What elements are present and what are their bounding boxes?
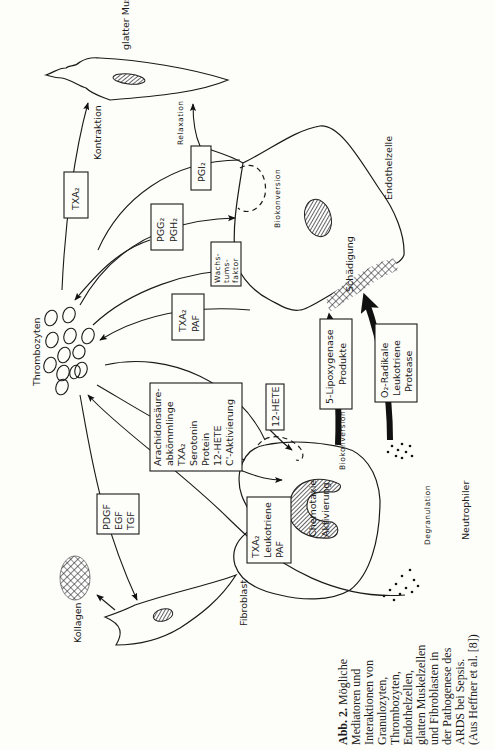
svg-text:TXA₂: TXA₂	[250, 535, 261, 559]
contraction-label: Kontraktion	[92, 105, 103, 160]
svg-text:Protease: Protease	[403, 351, 414, 392]
endothelial-label: Endothelzelle	[383, 136, 394, 200]
arrow-arach-neutro	[240, 470, 282, 480]
svg-text:C'-Aktivierung: C'-Aktivierung	[224, 399, 235, 466]
svg-text:und Fibroblasten in: und Fibroblasten in	[427, 652, 441, 745]
svg-text:Produkte: Produkte	[337, 343, 348, 385]
box-arachidonic: Arachidonsäure- abkömmlinge TXA₂ Seroton…	[150, 383, 242, 471]
arrow-hete-neutro	[270, 430, 292, 450]
figure-caption: Abb. 2. Mögliche Mediatoren und Interakt…	[336, 634, 480, 745]
activation-label: Aktivierung	[320, 483, 331, 537]
box-txa2-paf: TXA₂ PAF	[172, 294, 204, 340]
platelets-label: Thrombozyten	[31, 317, 42, 387]
damage-label: Schädigung	[344, 236, 355, 292]
svg-text:Granulozyten,: Granulozyten,	[375, 677, 389, 745]
smooth-muscle-cell: glatter Muskel	[46, 0, 228, 100]
svg-text:(Aus Heffner et al. [8]): (Aus Heffner et al. [8])	[466, 634, 480, 745]
svg-text:ARDS bei Sepsis.: ARDS bei Sepsis.	[453, 659, 467, 745]
box-pgi2: PGI₂	[191, 146, 211, 190]
relaxation-label: Relaxation	[176, 100, 185, 145]
svg-text:Leukotriene: Leukotriene	[262, 502, 273, 558]
svg-text:der Pathogenese des: der Pathogenese des	[440, 647, 454, 745]
svg-text:PAF: PAF	[274, 541, 285, 558]
collagen: Kollagen	[60, 556, 90, 643]
degranulation-label: Degranulation	[423, 485, 432, 545]
box-radicals: O₂-Radikale Leukotriene Protease	[375, 324, 417, 402]
chemotaxis-label: Chemotaxie	[307, 480, 318, 537]
svg-text:tums-: tums-	[222, 259, 231, 283]
mediator-diagram: glatter Muskel Kontraktion Relaxation Bi…	[0, 0, 495, 750]
svg-text:Leukotriene: Leukotriene	[391, 340, 402, 396]
smooth-muscle-label: glatter Muskel	[120, 0, 131, 50]
arrow-fibroblast-collagen	[97, 595, 115, 610]
box-txa2-leukotriene-paf: TXA₂ Leukotriene PAF	[247, 497, 291, 563]
svg-text:Wachs-: Wachs-	[213, 253, 222, 283]
svg-text:PGG₂: PGG₂	[155, 218, 166, 242]
box-growth-factor: Wachs- tums- faktor	[211, 242, 241, 286]
svg-text:abkömmlinge: abkömmlinge	[164, 401, 175, 466]
platelets-cluster: Thrombozyten	[31, 305, 96, 396]
svg-text:PGH₂: PGH₂	[168, 218, 179, 242]
svg-text:Arachidonsäure-: Arachidonsäure-	[152, 388, 163, 466]
svg-text:Endothelzellen,: Endothelzellen,	[401, 670, 415, 745]
svg-text:Protein: Protein	[200, 433, 211, 466]
svg-text:EGF: EGF	[113, 511, 124, 530]
box-pgg2-pgh2: PGG₂ PGH₂	[151, 204, 183, 250]
arrow-endo-platelets-1	[75, 240, 150, 300]
svg-text:PDGF: PDGF	[101, 504, 112, 530]
granules-bottom	[383, 569, 420, 602]
svg-text:TXA₂: TXA₂	[176, 443, 187, 467]
fibroblast-cell: Fibroblast	[105, 575, 249, 645]
endo-bioconversion-label: Biokonversion	[273, 169, 282, 228]
svg-text:TGF: TGF	[125, 511, 136, 531]
svg-text:PGI₂: PGI₂	[196, 162, 207, 182]
granules-top	[387, 443, 414, 460]
svg-text:TXA₂: TXA₂	[70, 187, 81, 211]
box-lipoxygenase: 5-Lipoxygenase Produkte	[320, 319, 352, 409]
fibroblast-label: Fibroblast	[238, 580, 249, 626]
svg-text:Abb. 2. Mögliche: Abb. 2. Mögliche	[336, 659, 350, 745]
svg-text:faktor: faktor	[231, 257, 240, 283]
svg-text:Thrombozyten,: Thrombozyten,	[388, 671, 402, 745]
box-12-hete: 12-HETE	[266, 384, 284, 430]
box-txa2-top: TXA₂	[64, 172, 88, 218]
box-pdgf-egf-tgf: PDGF EGF TGF	[97, 494, 139, 534]
svg-text:O₂-Radikale: O₂-Radikale	[379, 343, 390, 398]
collagen-label: Kollagen	[72, 602, 83, 643]
svg-text:12-HETE: 12-HETE	[212, 426, 223, 466]
svg-text:Serotonin: Serotonin	[188, 420, 199, 466]
svg-text:glatten Muskelzellen: glatten Muskelzellen	[414, 645, 428, 745]
neutrophil-label: Neutrophiler	[460, 481, 471, 540]
svg-text:Mediatoren und: Mediatoren und	[349, 669, 363, 745]
svg-text:12-HETE: 12-HETE	[270, 387, 281, 427]
svg-text:Interaktionen von: Interaktionen von	[362, 660, 376, 745]
svg-text:PAF: PAF	[190, 315, 201, 332]
svg-text:TXA₂: TXA₂	[177, 309, 188, 333]
svg-text:5-Lipoxygenase: 5-Lipoxygenase	[324, 329, 335, 404]
endothelial-cell: Biokonversion Schädigung Endothelzelle	[234, 126, 404, 312]
